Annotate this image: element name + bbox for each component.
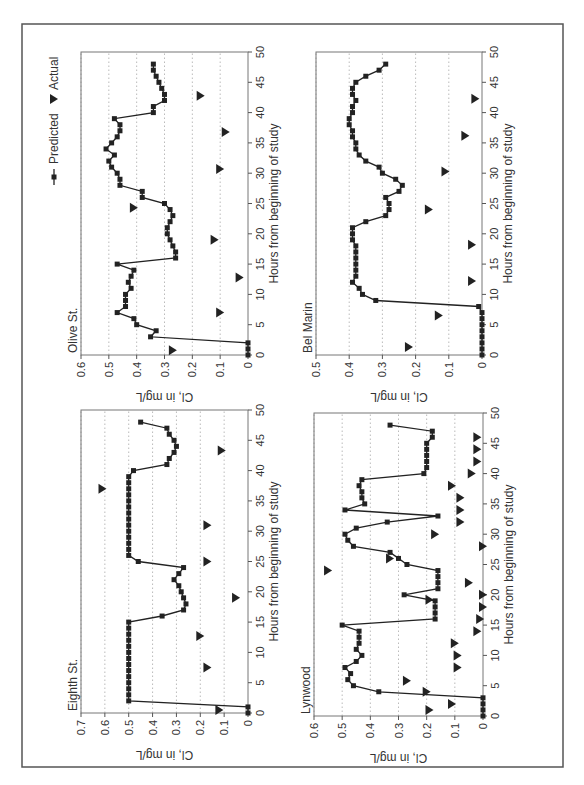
chart-panel-lynwood: 00.10.20.30.40.50.605101520253035404550H… bbox=[299, 407, 516, 765]
predicted-square-marker-icon bbox=[165, 225, 170, 230]
predicted-square-marker-icon bbox=[126, 541, 131, 546]
predicted-square-marker-icon bbox=[387, 201, 392, 206]
predicted-square-marker-icon bbox=[126, 480, 131, 485]
actual-triangle-marker-icon bbox=[456, 493, 464, 503]
predicted-square-marker-icon bbox=[342, 532, 347, 537]
predicted-square-marker-icon bbox=[126, 632, 131, 637]
predicted-square-marker-icon bbox=[181, 607, 186, 612]
legend-actual-label: Actual bbox=[47, 57, 61, 90]
actual-triangle-marker-icon bbox=[324, 566, 332, 576]
x-tick-label: 30 bbox=[488, 167, 500, 179]
predicted-square-marker-icon bbox=[353, 80, 358, 85]
x-tick-label: 30 bbox=[489, 528, 501, 540]
x-tick-label: 10 bbox=[254, 288, 266, 300]
predicted-square-marker-icon bbox=[162, 92, 167, 97]
predicted-square-marker-icon bbox=[131, 316, 136, 321]
x-axis-title: Hours from beginning of study bbox=[502, 484, 516, 644]
predicted-square-marker-icon bbox=[117, 177, 122, 182]
y-tick-label: 0.7 bbox=[75, 720, 87, 735]
predicted-square-marker-icon bbox=[126, 626, 131, 631]
actual-triangle-marker-icon bbox=[473, 456, 481, 466]
x-tick-label: 20 bbox=[488, 228, 500, 240]
y-tick-label: 0 bbox=[242, 720, 254, 726]
legend-actual-triangle-icon bbox=[50, 94, 58, 104]
predicted-square-marker-icon bbox=[435, 586, 440, 591]
predicted-square-marker-icon bbox=[480, 328, 485, 333]
predicted-square-marker-icon bbox=[359, 489, 364, 494]
x-tick-label: 45 bbox=[488, 76, 500, 88]
predicted-square-marker-icon bbox=[351, 544, 356, 549]
predicted-square-marker-icon bbox=[342, 507, 347, 512]
predicted-square-marker-icon bbox=[350, 92, 355, 97]
predicted-square-marker-icon bbox=[170, 213, 175, 218]
actual-triangle-marker-icon bbox=[473, 626, 481, 636]
actual-triangle-marker-icon bbox=[216, 308, 224, 318]
predicted-square-marker-icon bbox=[363, 74, 368, 79]
predicted-square-marker-icon bbox=[350, 225, 355, 230]
predicted-square-marker-icon bbox=[350, 110, 355, 115]
x-tick-label: 0 bbox=[489, 713, 501, 719]
predicted-square-marker-icon bbox=[340, 623, 345, 628]
predicted-square-marker-icon bbox=[430, 435, 435, 440]
actual-triangle-marker-icon bbox=[98, 484, 106, 494]
actual-triangle-marker-icon bbox=[203, 520, 211, 530]
x-tick-label: 40 bbox=[254, 464, 266, 476]
predicted-square-marker-icon bbox=[388, 550, 393, 555]
predicted-square-marker-icon bbox=[481, 701, 486, 706]
predicted-square-marker-icon bbox=[388, 423, 393, 428]
actual-triangle-marker-icon bbox=[468, 469, 476, 479]
predicted-square-marker-icon bbox=[354, 659, 359, 664]
x-tick-label: 15 bbox=[488, 258, 500, 270]
legend-predicted-square-icon bbox=[52, 175, 57, 180]
legend-predicted-label: Predicted bbox=[47, 113, 61, 164]
predicted-square-marker-icon bbox=[126, 523, 131, 528]
actual-triangle-marker-icon bbox=[236, 272, 244, 282]
predicted-square-marker-icon bbox=[162, 201, 167, 206]
predicted-square-marker-icon bbox=[351, 683, 356, 688]
predicted-square-marker-icon bbox=[131, 268, 136, 273]
predicted-square-marker-icon bbox=[480, 340, 485, 345]
predicted-square-marker-icon bbox=[424, 447, 429, 452]
predicted-square-marker-icon bbox=[126, 680, 131, 685]
x-tick-label: 20 bbox=[254, 586, 266, 598]
predicted-square-marker-icon bbox=[430, 429, 435, 434]
actual-triangle-marker-icon bbox=[130, 203, 138, 213]
predicted-square-marker-icon bbox=[126, 638, 131, 643]
actual-triangle-marker-icon bbox=[454, 650, 462, 660]
predicted-square-marker-icon bbox=[424, 465, 429, 470]
predicted-square-marker-icon bbox=[433, 604, 438, 609]
panel-title: Eighth St. bbox=[66, 659, 80, 711]
predicted-square-marker-icon bbox=[170, 243, 175, 248]
predicted-square-marker-icon bbox=[123, 298, 128, 303]
predicted-square-marker-icon bbox=[353, 243, 358, 248]
predicted-square-marker-icon bbox=[404, 562, 409, 567]
predicted-square-marker-icon bbox=[376, 689, 381, 694]
predicted-square-marker-icon bbox=[246, 346, 251, 351]
x-tick-label: 50 bbox=[254, 46, 266, 58]
predicted-square-marker-icon bbox=[359, 495, 364, 500]
predicted-square-marker-icon bbox=[123, 292, 128, 297]
predicted-square-marker-icon bbox=[162, 98, 167, 103]
actual-triangle-marker-icon bbox=[431, 529, 439, 539]
predicted-square-marker-icon bbox=[363, 159, 368, 164]
predicted-square-marker-icon bbox=[383, 195, 388, 200]
actual-triangle-marker-icon bbox=[471, 94, 479, 104]
predicted-square-marker-icon bbox=[136, 559, 141, 564]
predicted-square-marker-icon bbox=[109, 140, 114, 145]
chart-panel-olive-st: 00.10.20.30.40.50.605101520253035404550H… bbox=[66, 46, 281, 404]
y-tick-label: 0.1 bbox=[218, 720, 230, 735]
predicted-square-marker-icon bbox=[126, 644, 131, 649]
predicted-square-marker-icon bbox=[115, 171, 120, 176]
predicted-line bbox=[106, 64, 248, 355]
predicted-square-marker-icon bbox=[353, 274, 358, 279]
predicted-square-marker-icon bbox=[160, 614, 165, 619]
predicted-square-marker-icon bbox=[476, 304, 481, 309]
predicted-square-marker-icon bbox=[363, 219, 368, 224]
actual-triangle-marker-icon bbox=[441, 166, 449, 176]
actual-triangle-marker-icon bbox=[468, 240, 476, 250]
predicted-square-marker-icon bbox=[151, 68, 156, 73]
predicted-square-marker-icon bbox=[134, 322, 139, 327]
predicted-square-marker-icon bbox=[129, 274, 134, 279]
actual-triangle-marker-icon bbox=[461, 131, 469, 141]
y-tick-label: 0.1 bbox=[443, 362, 455, 377]
